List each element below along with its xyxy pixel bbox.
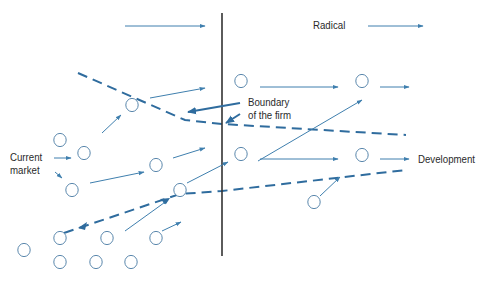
idea-circle — [125, 255, 137, 268]
arrows — [54, 26, 423, 231]
idea-circle — [90, 255, 102, 268]
label-radical: Radical — [313, 19, 345, 32]
label-boundary-line2: of the firm — [248, 109, 291, 122]
dashed-arrowhead-left — [78, 222, 87, 230]
idea-circle — [308, 195, 320, 208]
idea-circle — [356, 148, 368, 161]
innovation-diagram — [0, 0, 483, 281]
idea-circle — [174, 183, 186, 196]
pointer-arrow — [188, 103, 240, 112]
arrow — [90, 172, 144, 183]
idea-circle — [54, 133, 66, 146]
dashed-line — [64, 170, 406, 233]
idea-circle — [54, 255, 66, 268]
arrow — [162, 222, 181, 231]
arrow — [102, 115, 121, 133]
idea-circle — [54, 231, 66, 244]
idea-circle — [18, 243, 30, 256]
pointer-arrow — [226, 114, 240, 123]
label-current-line1: Current — [10, 151, 42, 164]
arrow — [173, 148, 205, 158]
idea-circle — [78, 146, 90, 159]
idea-circle — [356, 74, 368, 87]
label-development: Development — [418, 153, 475, 166]
arrow — [320, 177, 340, 196]
arrow — [150, 88, 205, 98]
idea-circles — [18, 74, 368, 268]
idea-circle — [126, 98, 138, 111]
arrow — [55, 172, 62, 178]
label-boundary-line1: Boundary — [248, 96, 289, 109]
label-current-line2: market — [10, 164, 40, 177]
idea-circle — [66, 183, 78, 196]
idea-circle — [150, 158, 162, 171]
idea-circle — [235, 74, 247, 87]
idea-circle — [150, 231, 162, 244]
idea-circle — [235, 147, 247, 160]
idea-circle — [101, 231, 113, 244]
boundary-pointer-arrows — [188, 103, 240, 123]
